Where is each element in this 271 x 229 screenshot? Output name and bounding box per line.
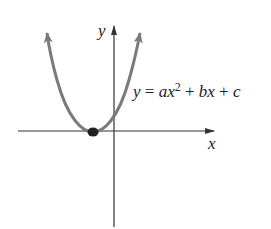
eq-b: b [199,82,208,101]
eq-a: a [159,82,168,101]
x-axis-label: x [207,134,216,153]
y-axis-label: y [96,21,106,40]
parabola-curve-left [47,33,93,132]
eq-plus2: + [215,82,233,101]
vertex-point [88,128,99,137]
eq-y: y [131,82,141,101]
parabola-diagram: y x y = ax2 + bx + c [0,0,271,229]
eq-plus1: + [181,82,199,101]
eq-equals: = [141,82,159,101]
eq-c: c [233,82,241,101]
equation-label: y = ax2 + bx + c [131,80,241,101]
